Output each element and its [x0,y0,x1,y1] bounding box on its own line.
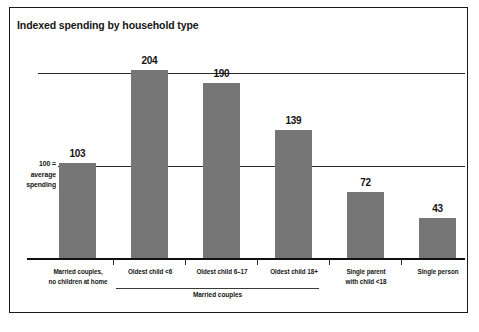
bar-value-label: 43 [413,203,462,214]
category-label-single-person: Single person [402,267,474,277]
gridline-200 [38,73,465,74]
category-label-oldest-child-18-plus: Oldest child 18+ [258,267,330,277]
bar-single-person [419,218,456,258]
axis-tick [329,259,330,265]
category-label-oldest-child-under-6: Oldest child <6 [114,267,186,277]
chart-figure: Indexed spending by household type 103 2… [0,0,479,332]
axis-note: Married couples, 100 = average spending [8,159,56,191]
gridline-100 [58,166,465,167]
category-label-line: Single person [402,267,474,277]
axis-note-line-3: spending [8,180,56,191]
bar-value-label: 190 [197,68,246,79]
bar-married-couples-no-children [59,163,96,258]
axis-tick [113,259,114,265]
bar-value-label: 204 [125,55,174,66]
bar-single-parent-with-child [347,192,384,258]
category-label-line: Married couples, [40,267,116,277]
axis-tick [185,259,186,265]
axis-tick [401,259,402,265]
category-label-line: Oldest child 18+ [258,267,330,277]
category-label-oldest-child-6-17: Oldest child 6–17 [186,267,258,277]
bar-oldest-child-6-17 [203,83,240,258]
group-bracket-label: Married couples [116,291,319,298]
category-label-line: Single parent [330,267,402,277]
group-bracket-line [116,288,319,289]
bar-value-label: 103 [53,148,102,159]
axis-note-line-1: 100 = [8,159,56,170]
bar-value-label: 72 [341,177,390,188]
bar-value-label: 139 [269,115,318,126]
axis-note-line-2: average [8,170,56,181]
category-label-single-parent-with-child: Single parent with child <18 [330,267,402,287]
bar-oldest-child-18-plus [275,130,312,258]
category-label-line: no children at home [40,277,116,287]
x-axis-baseline [27,258,465,260]
category-label-line: Oldest child 6–17 [186,267,258,277]
category-label-line: Oldest child <6 [114,267,186,277]
bar-oldest-child-under-6 [131,70,168,258]
axis-tick [257,259,258,265]
category-label-married-couples-no-children: Married couples, no children at home [40,267,116,287]
plot-area: 103 204 190 139 72 43 Married couples, 1… [0,0,479,332]
category-label-line: with child <18 [330,277,402,287]
